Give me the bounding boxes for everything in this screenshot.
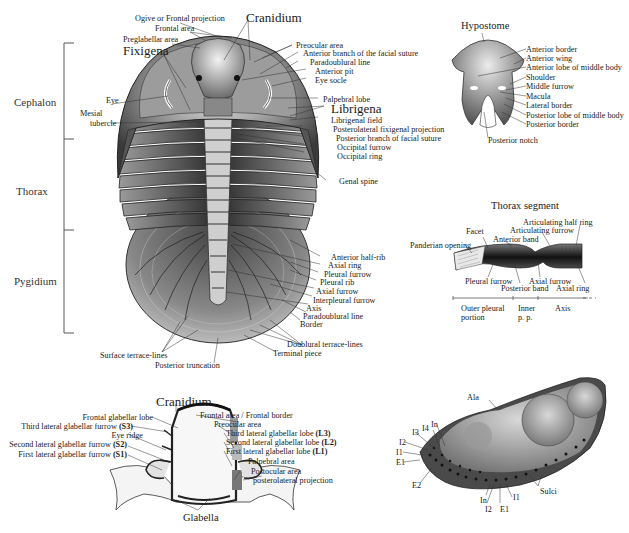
label-posterolateral-projection: posterolateral projection: [253, 476, 333, 485]
label-posterolateral-fixigenal-projection: Posterolateral fixigenal projection: [333, 125, 444, 134]
label-s2: Second lateral glabellar furrow (S2): [9, 440, 127, 449]
label-hypo-posterior-notch: Posterior notch: [488, 136, 538, 145]
label-hypo-macula: Macula: [526, 92, 551, 101]
label-eye: Eye: [106, 96, 119, 105]
label-thorax-segment-title: Thorax segment: [491, 200, 559, 212]
label-hypo-posterior-lobe: Posterior lobe of middle body: [526, 111, 624, 120]
label-hypostome-title: Hypostome: [461, 20, 509, 32]
label-scale-inner-2: p. p.: [518, 313, 532, 322]
label-sem-i2-bottom: I2: [485, 505, 492, 514]
label-fixigena: Fixigena: [123, 44, 169, 58]
sem-cephalon-illustration: [420, 378, 606, 489]
label-anterior-band: Anterior band: [493, 235, 539, 244]
label-scale-outer-1: Outer pleural: [461, 304, 504, 313]
label-eye-socle: Eye socle: [315, 76, 347, 85]
label-sem-e1-left: E1: [396, 458, 405, 467]
label-ala: Ala: [467, 393, 479, 402]
label-sulci: Sulci: [540, 487, 557, 496]
region-label-pygidium: Pygidium: [14, 275, 57, 287]
label-panderian-opening: Panderian opening: [410, 241, 471, 250]
label-scale-axis: Axis: [555, 304, 570, 313]
label-border: Border: [300, 320, 323, 329]
label-surface-terrace-lines: Surface terrace-lines: [100, 351, 168, 360]
label-hypo-posterior-border: Posterior border: [526, 120, 579, 129]
label-hypo-lateral-border: Lateral border: [526, 101, 573, 110]
label-axial-ring: Axial ring: [328, 261, 361, 270]
label-hypo-shoulder: Shoulder: [526, 73, 556, 82]
label-sem-e1-bottom: E1: [500, 505, 509, 514]
label-l2: Second lateral glabellar lobe (L2): [226, 438, 337, 447]
label-sem-e2: E2: [412, 481, 421, 490]
label-hypo-middle-furrow: Middle furrow: [526, 82, 574, 91]
label-terminal-piece: Terminal piece: [273, 349, 322, 358]
label-librigena: Librigena: [331, 102, 382, 116]
label-posterior-truncation: Posterior truncation: [155, 361, 220, 370]
label-sem-i3: I3: [412, 428, 419, 437]
label-articulating-furrow: Articulating furrow: [510, 226, 574, 235]
label-interpleural-furrow: Interpleural furrow: [313, 296, 376, 305]
label-occipital-ring: Occipital ring: [337, 152, 382, 161]
label-librigenal-field: Librigenal field: [331, 116, 382, 125]
label-hypo-anterior-lobe: Anterior lobe of middle body: [526, 63, 622, 72]
hypostome-illustration: [452, 40, 524, 128]
label-sem-in-top: In: [431, 420, 438, 429]
label-paradoublural-line: Paradoublural line: [310, 58, 370, 67]
label-postocular-area: Postocular area: [251, 467, 301, 476]
label-posterior-branch-facial-suture: Posterior branch of facial suture: [336, 134, 441, 143]
label-sem-i4: I4: [422, 424, 429, 433]
label-scale-inner-1: Inner: [518, 304, 535, 313]
label-s1: First lateral glabellar furrow (S1): [18, 450, 127, 459]
label-hypo-anterior-border: Anterior border: [526, 45, 577, 54]
label-occipital-furrow: Occipital furrow: [337, 143, 391, 152]
label-mesial-2: tubercle: [90, 119, 116, 128]
label-axial-ring-seg: Axial ring: [556, 284, 589, 293]
region-label-cephalon: Cephalon: [14, 96, 56, 108]
label-palpebral-area: Palpebral area: [248, 457, 295, 466]
label-mesial-1: Mesial: [80, 109, 102, 118]
label-ogive: Ogive or Frontal projection: [135, 14, 225, 23]
label-cranidium: Cranidium: [246, 11, 302, 25]
region-label-thorax: Thorax: [16, 185, 48, 197]
label-doublural-terrace-lines: Doublural terrace-lines: [287, 340, 363, 349]
label-sem-i1-left: I1: [396, 448, 403, 457]
label-frontal-area: Frontal area: [155, 24, 194, 33]
label-sem-i1-bottom: I1: [513, 493, 520, 502]
label-anterior-branch-facial-suture: Anterior branch of the facial suture: [303, 49, 418, 58]
label-l3: Third lateral glabellar lobe (L3): [226, 429, 331, 438]
label-genal-spine: Genal spine: [339, 177, 378, 186]
label-hypo-anterior-wing: Anterior wing: [526, 54, 572, 63]
label-s3: Third lateral glabellar furrow (S3): [21, 422, 133, 431]
label-l1: First lateral glabellar lobe (L1): [226, 447, 327, 456]
label-frontal-glabellar-lobe: Frontal glabellar lobe: [83, 413, 153, 422]
label-pleural-rib: Pleural rib: [320, 278, 354, 287]
label-scale-outer-2: portion: [461, 313, 485, 322]
label-facet: Facet: [466, 227, 484, 236]
label-anterior-pit: Anterior pit: [315, 67, 353, 76]
label-cranidium-detail-title: Cranidium: [156, 395, 212, 409]
label-eye-ridge: Eye ridge: [111, 431, 143, 440]
label-frontal-border: Frontal area / Frontal border: [200, 411, 293, 420]
body-region-bracket: [64, 43, 74, 333]
label-sem-i2-left: I2: [399, 438, 406, 447]
label-glabella: Glabella: [183, 512, 219, 524]
label-axial-furrow: Axial furrow: [316, 287, 359, 296]
label-posterior-band: Posterior band: [501, 284, 549, 293]
label-sem-in-bottom: In: [480, 496, 487, 505]
label-preocular-area-detail: Preocular area: [214, 420, 261, 429]
